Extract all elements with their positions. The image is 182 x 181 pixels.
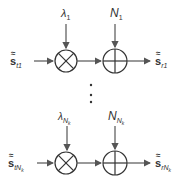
subscript: r1 (161, 62, 167, 69)
gain-label-row1: λ1 (61, 8, 70, 19)
tilde-accent: ≈ (156, 50, 160, 58)
tilde-accent: ≈ (9, 152, 13, 160)
input-label-row1: ≈st1 (10, 56, 22, 67)
row-2 (37, 126, 150, 175)
ellipsis-icon (90, 84, 92, 103)
noise-label-row1: N1 (110, 7, 123, 19)
subscript: t1 (16, 62, 22, 69)
output-label-row1: ≈sr1 (155, 56, 167, 67)
subscript: 1 (66, 14, 70, 21)
subscript: 1 (119, 14, 123, 21)
adder-icon (103, 151, 127, 175)
subscript: N (117, 117, 122, 124)
input-label-row2: ≈stNk (8, 158, 24, 169)
sub-subscript: k (169, 167, 172, 173)
sub-subscript: k (122, 120, 125, 126)
tilde-accent: ≈ (11, 50, 15, 58)
adder-icon (103, 49, 127, 73)
output-label-row2: ≈srNk (155, 158, 171, 169)
tilde-accent: ≈ (156, 152, 160, 160)
symbol: N (108, 109, 117, 123)
row-1 (34, 24, 150, 73)
multiplier-icon (55, 50, 77, 72)
multiplier-icon (55, 152, 77, 174)
diagram-canvas (0, 0, 182, 181)
symbol: N (110, 6, 119, 20)
sub-subscript: k (21, 167, 24, 173)
subscript: rN (161, 164, 168, 171)
gain-label-row2: λNk (58, 112, 70, 122)
noise-label-row2: NNk (108, 110, 124, 122)
